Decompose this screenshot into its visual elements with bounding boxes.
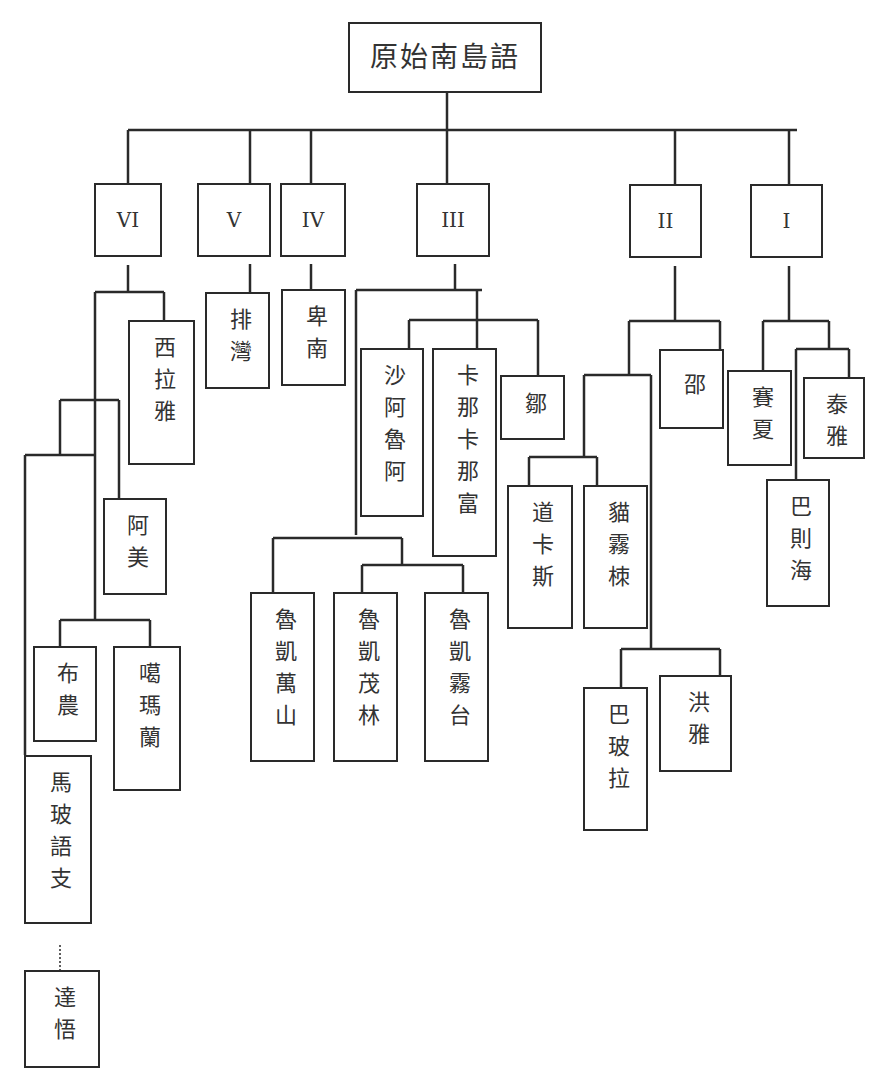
node-siraya: 西拉雅 <box>128 320 195 465</box>
node-yami: 達悟 <box>24 970 100 1068</box>
node-label: 西拉雅 <box>151 336 173 432</box>
node-puyuma: 卑南 <box>281 289 346 386</box>
node-label: 沙阿魯阿 <box>381 364 403 492</box>
node-taokas: 道卡斯 <box>507 485 573 629</box>
node-label: 道卡斯 <box>529 501 551 597</box>
node-bunun: 布農 <box>33 646 97 742</box>
node-label: 達悟 <box>51 986 73 1050</box>
node-label: 賽夏 <box>749 386 771 450</box>
node-label: 魯凱霧台 <box>446 608 468 736</box>
node-branch-v: V <box>197 183 271 257</box>
node-label: 鄒 <box>522 392 544 424</box>
node-label: 巴玻拉 <box>605 703 627 799</box>
node-label: 泰雅 <box>823 393 845 457</box>
node-hoanya: 洪雅 <box>659 675 732 772</box>
node-label: VI <box>117 210 139 230</box>
node-babuza: 貓霧栜 <box>583 485 648 629</box>
node-proto-austronesian: 原始南島語 <box>348 22 542 93</box>
node-pazeh: 巴則海 <box>766 479 830 607</box>
node-saaroa: 沙阿魯阿 <box>360 348 424 517</box>
node-branch-iv: IV <box>280 183 346 257</box>
node-label: V <box>227 210 241 230</box>
node-atayal: 泰雅 <box>803 377 865 459</box>
node-label: IV <box>302 210 324 230</box>
node-label: 魯凱茂林 <box>355 608 377 736</box>
node-label: 排灣 <box>227 308 249 372</box>
node-rukai-wanshan: 魯凱萬山 <box>250 592 315 762</box>
node-rukai-wutai: 魯凱霧台 <box>424 592 489 762</box>
node-label: 卑南 <box>303 305 325 369</box>
node-label: 邵 <box>681 373 703 405</box>
node-label: 原始南島語 <box>370 44 520 72</box>
node-kavalan: 噶瑪蘭 <box>113 646 181 791</box>
node-label: 洪雅 <box>685 691 707 755</box>
node-label: 貓霧栜 <box>605 501 627 597</box>
node-label: 魯凱萬山 <box>272 608 294 736</box>
node-branch-i: I <box>750 184 823 258</box>
node-malayo-polynesian: 馬玻語支 <box>24 755 92 924</box>
node-amis: 阿美 <box>103 498 167 595</box>
node-tsou: 鄒 <box>500 375 565 440</box>
node-thao: 邵 <box>659 349 724 429</box>
node-rukai-maolin: 魯凱茂林 <box>333 592 398 762</box>
node-label: 卡那卡那富 <box>454 364 476 524</box>
node-label: 馬玻語支 <box>47 771 69 899</box>
node-paiwan: 排灣 <box>205 292 270 389</box>
node-branch-vi: VI <box>94 183 162 257</box>
node-label: I <box>783 211 791 231</box>
node-branch-ii: II <box>629 184 702 258</box>
node-saisiyat: 賽夏 <box>727 370 792 466</box>
node-papora: 巴玻拉 <box>583 687 648 831</box>
node-kanakanavu: 卡那卡那富 <box>432 348 497 557</box>
node-label: 布農 <box>54 662 76 726</box>
node-label: III <box>441 210 465 230</box>
node-label: 噶瑪蘭 <box>136 662 158 758</box>
node-label: 阿美 <box>124 514 146 578</box>
node-branch-iii: III <box>416 183 490 257</box>
node-label: II <box>658 211 674 231</box>
node-label: 巴則海 <box>787 495 809 591</box>
